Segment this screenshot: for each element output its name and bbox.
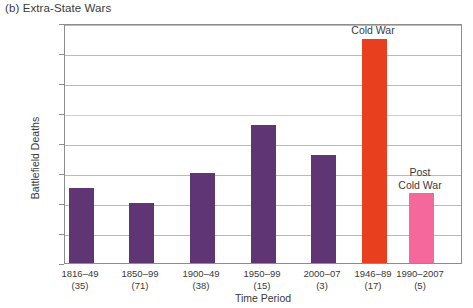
y-axis-title: Battlefield Deaths (29, 78, 41, 238)
y-tick-mark (59, 174, 64, 175)
y-tick-mark (59, 84, 64, 85)
y-tick-mark (59, 264, 64, 265)
bar-1900-49 (190, 173, 215, 263)
gridline (65, 115, 461, 116)
bar-1990-2007 (409, 193, 434, 263)
y-tick-mark (59, 114, 64, 115)
gridline (65, 85, 461, 86)
bar-1946-89 (362, 39, 387, 263)
chart-figure: (b) Extra-State Wars Battlefield Deaths … (0, 0, 473, 308)
x-axis-title: Time Period (64, 292, 462, 304)
y-tick-mark (59, 144, 64, 145)
bar-annotation: PostCold War (375, 166, 465, 191)
bar-1816-49 (69, 188, 94, 263)
x-tick-count: (5) (380, 280, 460, 292)
bar-annotation: Cold War (328, 24, 418, 37)
plot-area (64, 24, 462, 264)
y-tick-mark (59, 204, 64, 205)
y-tick-mark (59, 234, 64, 235)
y-tick-mark (59, 54, 64, 55)
x-tick-label: 1990–2007(5) (380, 268, 460, 292)
x-tick-period: 1990–2007 (380, 268, 460, 280)
gridline (65, 55, 461, 56)
bar-1850-99 (129, 203, 154, 263)
page-title: (b) Extra-State Wars (5, 2, 111, 14)
bar-2000-07 (311, 155, 336, 263)
y-tick-mark (59, 24, 64, 25)
bar-1950-99 (251, 125, 276, 263)
